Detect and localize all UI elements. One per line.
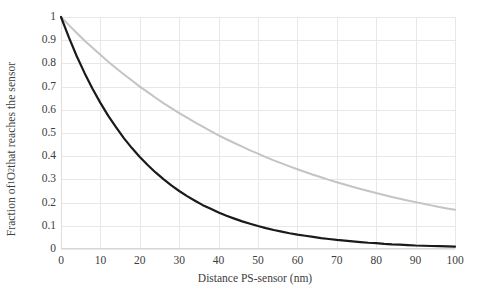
x-tick-label: 60	[277, 255, 317, 267]
y-tick-label: 0.8	[4, 58, 56, 70]
y-tick-label: 1	[4, 11, 56, 23]
y-tick-label: 0	[4, 243, 56, 255]
y-tick-label: 0.9	[4, 34, 56, 46]
gridline-horizontal	[61, 249, 455, 250]
slow-decay-curve	[61, 17, 455, 210]
x-tick-label: 40	[199, 255, 239, 267]
x-tick-label: 80	[356, 255, 396, 267]
x-tick-label: 0	[41, 255, 81, 267]
curves-layer	[61, 17, 455, 249]
x-tick-label: 70	[317, 255, 357, 267]
x-tick-label: 90	[396, 255, 436, 267]
y-tick-label: 0.2	[4, 197, 56, 209]
x-axis-tick-labels: 0102030405060708090100	[61, 255, 455, 271]
y-tick-label: 0.7	[4, 81, 56, 93]
x-tick-label: 20	[120, 255, 160, 267]
y-tick-label: 0.4	[4, 150, 56, 162]
y-axis-tick-labels: 00.10.20.30.40.50.60.70.80.91	[0, 17, 56, 249]
x-tick-label: 100	[435, 255, 475, 267]
y-tick-label: 0.1	[4, 220, 56, 232]
y-tick-label: 0.6	[4, 104, 56, 116]
y-tick-label: 0.3	[4, 174, 56, 186]
gridline-vertical	[455, 17, 456, 249]
chart-figure: Fraction of 1O2 that reaches the sensor …	[0, 0, 488, 298]
plot-area	[61, 17, 455, 249]
x-tick-label: 10	[80, 255, 120, 267]
x-tick-label: 30	[159, 255, 199, 267]
x-tick-label: 50	[238, 255, 278, 267]
x-axis-label: Distance PS-sensor (nm)	[55, 272, 455, 284]
y-tick-label: 0.5	[4, 127, 56, 139]
fast-decay-curve	[61, 17, 455, 247]
